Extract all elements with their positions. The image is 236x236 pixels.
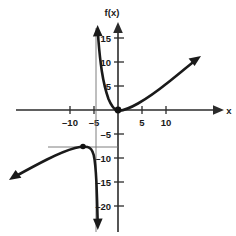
x-axis-arrowhead <box>213 105 224 115</box>
upper-left-branch-arrowhead <box>93 25 103 36</box>
y-axis-arrowhead <box>113 22 123 33</box>
x-tick-label-neg-5: –5 <box>89 117 100 128</box>
x-axis-title: x <box>226 105 232 116</box>
lower-left-branch-down-arrowhead <box>93 219 103 230</box>
x-tick-label-neg-10: –10 <box>62 117 78 128</box>
x-tick-label-10: 10 <box>161 117 172 128</box>
lower-left-branch-curve <box>16 147 98 219</box>
origin-point-marker <box>115 107 122 114</box>
function-graph-figure: –10 –5 5 10 15 10 5 –5 –10 –15 –20 f(x) … <box>0 0 236 236</box>
y-tick-label-neg-10: –10 <box>95 153 111 164</box>
right-branch-curve <box>119 62 195 112</box>
y-tick-label-15: 15 <box>100 33 111 44</box>
x-tick-label-5: 5 <box>139 117 145 128</box>
tick-labels-group: –10 –5 5 10 15 10 5 –5 –10 –15 –20 <box>62 33 171 212</box>
y-axis-title: f(x) <box>105 7 120 18</box>
y-tick-label-neg-5: –5 <box>100 129 111 140</box>
upper-left-branch-curve <box>98 32 117 111</box>
plot-canvas: –10 –5 5 10 15 10 5 –5 –10 –15 –20 f(x) … <box>0 0 236 236</box>
local-maximum-point-marker <box>80 144 86 150</box>
axes-group <box>16 22 224 232</box>
